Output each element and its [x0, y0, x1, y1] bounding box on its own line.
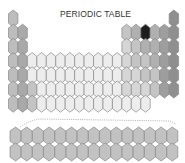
element-cell [169, 81, 178, 98]
periodic-table-diagram: PERIODIC TABLE [0, 0, 185, 163]
element-cell [75, 95, 84, 112]
f-block-cell [10, 143, 21, 161]
f-block-cell [111, 127, 122, 145]
f-block-cell [144, 127, 155, 145]
f-block-cell [77, 127, 88, 145]
f-block-cell [21, 143, 32, 161]
f-block-cell [167, 143, 178, 161]
f-block-cell [133, 143, 144, 161]
f-block-cell [88, 143, 99, 161]
f-block-cell [21, 127, 32, 145]
f-block-cell [144, 143, 155, 161]
f-block-cell [88, 127, 99, 145]
element-cell [37, 95, 46, 112]
f-block-connector-line [20, 119, 176, 127]
f-block-cell [156, 127, 167, 145]
f-block-cell [122, 143, 133, 161]
element-cell [131, 95, 140, 112]
element-grid [0, 0, 185, 163]
f-block-cell [77, 143, 88, 161]
f-block-cell [122, 127, 133, 145]
f-block-cell [32, 127, 43, 145]
element-cell [65, 95, 74, 112]
element-cell [103, 95, 112, 112]
f-block-cell [10, 127, 21, 145]
f-block-cell [100, 127, 111, 145]
f-block-cell [156, 143, 167, 161]
f-block-cell [44, 143, 55, 161]
f-block-cell [55, 127, 66, 145]
element-cell [94, 95, 103, 112]
element-cell [84, 95, 93, 112]
element-cell [18, 95, 27, 112]
f-block-cell [44, 127, 55, 145]
f-block-cell [66, 143, 77, 161]
element-cell [56, 95, 65, 112]
f-block-cell [167, 127, 178, 145]
f-block-cell [111, 143, 122, 161]
f-block-cell [133, 127, 144, 145]
element-cell [112, 95, 121, 112]
element-cell [150, 81, 159, 98]
element-cell [141, 95, 150, 112]
element-cell [122, 95, 131, 112]
f-block-cell [66, 127, 77, 145]
f-block-cell [32, 143, 43, 161]
f-block-cell [100, 143, 111, 161]
element-cell [46, 95, 55, 112]
element-cell [27, 95, 36, 112]
f-block-cell [55, 143, 66, 161]
element-cell [160, 81, 169, 98]
element-cell [9, 95, 18, 112]
